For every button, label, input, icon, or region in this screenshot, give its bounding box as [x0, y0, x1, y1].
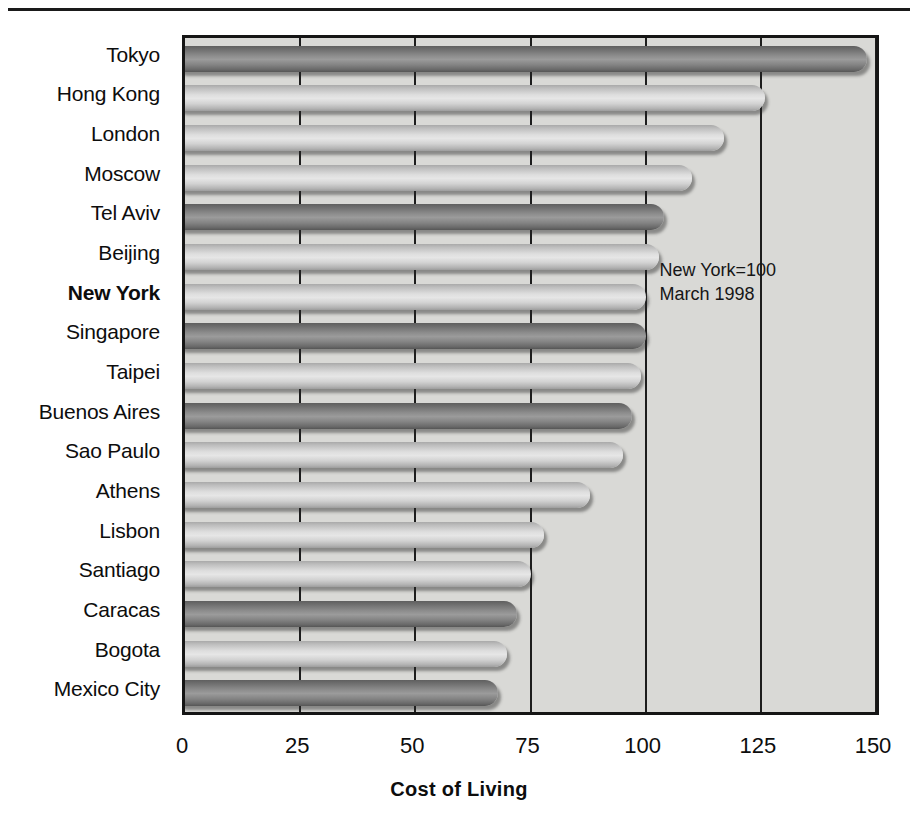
category-label-singapore: Singapore — [0, 321, 172, 342]
x-axis-title: Cost of Living — [0, 778, 918, 801]
bar — [182, 561, 531, 587]
category-label-bogota: Bogota — [0, 639, 172, 660]
category-label-new-york: New York — [0, 282, 172, 303]
bar — [182, 522, 544, 548]
bar — [182, 482, 590, 508]
bar — [182, 204, 664, 230]
x-axis: 0255075100125150 — [182, 715, 879, 755]
category-label-santiago: Santiago — [0, 559, 172, 580]
bar — [182, 244, 659, 270]
bar — [182, 85, 765, 111]
category-label-beijing: Beijing — [0, 242, 172, 263]
category-label-buenos-aires: Buenos Aires — [0, 401, 172, 422]
x-tick-label-125: 125 — [739, 733, 776, 759]
category-label-mexico-city: Mexico City — [0, 678, 172, 699]
chart-annotation: New York=100 March 1998 — [659, 258, 776, 307]
category-label-lisbon: Lisbon — [0, 520, 172, 541]
x-tick-label-0: 0 — [176, 733, 188, 759]
gridline-150 — [875, 38, 877, 712]
x-tick-label-25: 25 — [285, 733, 309, 759]
category-label-sao-paulo: Sao Paulo — [0, 440, 172, 461]
bar — [182, 323, 646, 349]
bar — [182, 165, 692, 191]
category-label-moscow: Moscow — [0, 163, 172, 184]
bar — [182, 46, 867, 72]
top-divider-rule — [8, 8, 910, 11]
cost-of-living-bar-chart: TokyoHong KongLondonMoscowTel AvivBeijin… — [0, 0, 918, 818]
x-tick-label-100: 100 — [624, 733, 661, 759]
bar — [182, 363, 641, 389]
plot-area: New York=100 March 1998 — [182, 35, 879, 715]
category-label-taipei: Taipei — [0, 361, 172, 382]
category-axis: TokyoHong KongLondonMoscowTel AvivBeijin… — [0, 35, 172, 715]
gridline-125 — [760, 38, 762, 712]
bar — [182, 403, 632, 429]
x-tick-label-150: 150 — [855, 733, 892, 759]
bar — [182, 442, 623, 468]
bar — [182, 284, 646, 310]
annotation-line-1: New York=100 — [659, 258, 776, 282]
annotation-line-2: March 1998 — [659, 282, 776, 306]
x-tick-label-75: 75 — [515, 733, 539, 759]
bar — [182, 601, 517, 627]
category-label-athens: Athens — [0, 480, 172, 501]
category-label-tel-aviv: Tel Aviv — [0, 202, 172, 223]
category-label-london: London — [0, 123, 172, 144]
category-label-hong-kong: Hong Kong — [0, 83, 172, 104]
x-tick-label-50: 50 — [400, 733, 424, 759]
bar — [182, 125, 724, 151]
bar — [182, 680, 498, 706]
bar — [182, 641, 507, 667]
plot-inner: New York=100 March 1998 — [185, 38, 876, 712]
category-label-caracas: Caracas — [0, 599, 172, 620]
category-label-tokyo: Tokyo — [0, 44, 172, 65]
